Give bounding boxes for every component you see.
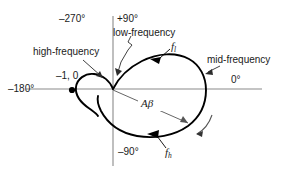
rotation-direction-arc (197, 115, 212, 134)
axis-label-minus-90: –90° (118, 147, 139, 157)
axis-label-zero: 0° (231, 75, 241, 85)
high-frequency-label: high-frequency (33, 47, 99, 57)
low-frequency-leader (118, 36, 132, 72)
high-frequency-loop (76, 74, 113, 116)
axis-label-plus-90: +90° (117, 14, 138, 24)
f-high-label: fh (165, 147, 172, 160)
low-frequency-label: low-frequency (113, 28, 175, 38)
a-beta-a: A (141, 97, 148, 109)
a-beta-vector-label: Aβ (141, 98, 153, 109)
critical-point-marker (69, 87, 75, 93)
f-low-label: fl (171, 41, 176, 54)
axis-label-minus-180: –180° (8, 84, 34, 94)
f-low-subscript: l (174, 45, 176, 54)
a-beta-beta: β (148, 97, 153, 109)
figure-container: –270° +90° –180° 0° –90° –1, 0 high-freq… (0, 0, 288, 177)
critical-point-label: –1, 0 (56, 71, 78, 81)
mid-frequency-leader-arrowhead (205, 69, 213, 75)
main-response-curve (98, 54, 206, 137)
axis-label-minus-270: –270° (59, 14, 85, 24)
a-beta-vector-arrowhead (180, 116, 188, 123)
mid-frequency-label: mid-frequency (207, 55, 270, 65)
f-high-subscript: h (168, 151, 172, 160)
